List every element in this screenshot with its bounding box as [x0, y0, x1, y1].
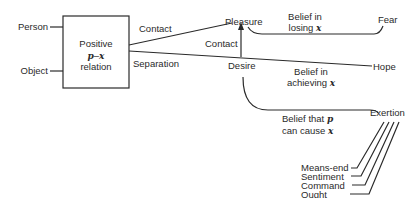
belief-losing-line-2: losing x [270, 22, 340, 34]
belief-cause-line-2: can cause x [282, 125, 333, 137]
belief-losing-line-1: Belief in [270, 11, 340, 22]
desire-node: Desire [228, 60, 255, 71]
ought-line [350, 122, 399, 194]
fear-node: Fear [378, 14, 398, 25]
belief-cause-label: Belief that p can cause x [282, 113, 333, 137]
contact-vertical-label: Contact [205, 38, 238, 49]
belief-losing-var: x [316, 23, 321, 33]
separation-label: Separation [133, 58, 179, 69]
box-line-3: relation [63, 61, 129, 72]
belief-losing-text: losing [289, 22, 314, 33]
belief-cause-text-1: Belief that [282, 113, 324, 124]
belief-cause-var-p: p [327, 114, 333, 124]
source-ought: Ought [301, 189, 327, 198]
object-label: Object [2, 65, 48, 76]
belief-cause-line-1: Belief that p [282, 113, 333, 125]
exertion-node: Exertion [370, 107, 405, 118]
belief-achieving-text: achieving [287, 77, 327, 88]
contact-label: Contact [139, 23, 172, 34]
pleasure-node: Pleasure [225, 16, 263, 27]
p-x-relation-diagram: Person Object Positive p–x relation Cont… [0, 0, 420, 198]
means-end-line [351, 122, 384, 168]
belief-achieving-label: Belief in achieving x [271, 66, 351, 89]
diagram-connectors [0, 0, 420, 198]
box-var-x: x [99, 51, 104, 61]
belief-achieving-line-2: achieving x [271, 77, 351, 89]
belief-cause-var-x: x [328, 126, 333, 136]
belief-achieving-line-1: Belief in [271, 66, 351, 77]
belief-achieving-var: x [330, 78, 335, 88]
person-label: Person [2, 21, 48, 32]
hope-node: Hope [373, 61, 396, 72]
box-line-1: Positive [63, 38, 129, 49]
belief-cause-text-2: can cause [282, 125, 325, 136]
belief-losing-label: Belief in losing x [270, 11, 340, 34]
